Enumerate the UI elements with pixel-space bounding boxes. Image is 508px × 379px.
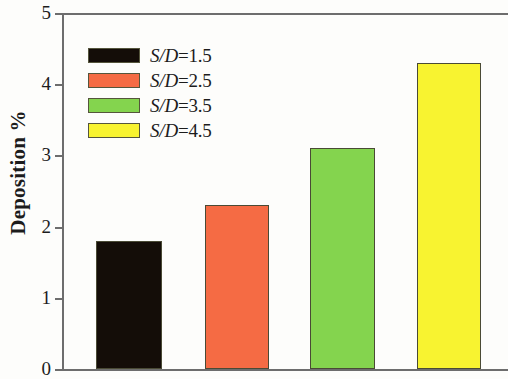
y-axis-tick-mark <box>55 155 62 157</box>
legend-item: S/D=4.5 <box>88 119 233 142</box>
legend-label-value: =4.5 <box>178 120 212 141</box>
legend-label: S/D=1.5 <box>150 45 212 67</box>
y-axis-tick-label: 5 <box>42 2 52 24</box>
legend-item: S/D=2.5 <box>88 69 233 92</box>
legend-item: S/D=1.5 <box>88 44 233 67</box>
legend-label: S/D=3.5 <box>150 95 212 117</box>
y-axis-tick-label: 2 <box>42 215 52 237</box>
legend: S/D=1.5S/D=2.5S/D=3.5S/D=4.5 <box>88 44 233 144</box>
legend-swatch <box>88 48 140 63</box>
legend-label-value: =1.5 <box>178 45 212 66</box>
y-axis-tick-mark <box>55 298 62 300</box>
legend-label-symbol: S/D <box>150 45 178 66</box>
bar-s-d-4-5 <box>417 63 481 369</box>
legend-label-symbol: S/D <box>150 95 178 116</box>
y-axis-tick-mark <box>55 84 62 86</box>
y-axis-tick-label: 3 <box>42 144 52 166</box>
y-axis-label-container: Deposition % <box>0 0 34 379</box>
y-axis-label: Deposition % <box>6 43 31 303</box>
y-axis-tick-label: 0 <box>42 358 52 379</box>
y-axis-tick-label: 4 <box>42 73 52 95</box>
legend-swatch <box>88 73 140 88</box>
y-axis-tick-mark <box>55 227 62 229</box>
y-axis-line <box>62 13 64 371</box>
legend-label-value: =2.5 <box>178 70 212 91</box>
x-axis-line <box>62 369 508 371</box>
bar-s-d-1-5 <box>96 241 162 369</box>
legend-label-symbol: S/D <box>150 70 178 91</box>
legend-swatch <box>88 123 140 138</box>
y-axis-tick-mark <box>55 13 62 15</box>
legend-item: S/D=3.5 <box>88 94 233 117</box>
bar-s-d-3-5 <box>310 148 375 369</box>
legend-label: S/D=4.5 <box>150 120 212 142</box>
legend-label-symbol: S/D <box>150 120 178 141</box>
chart-figure: Deposition % 543210 S/D=1.5S/D=2.5S/D=3.… <box>0 0 508 379</box>
legend-swatch <box>88 98 140 113</box>
legend-label-value: =3.5 <box>178 95 212 116</box>
y-axis-tick-mark <box>55 369 62 371</box>
plot-top-border <box>62 13 508 15</box>
bar-s-d-2-5 <box>205 205 269 369</box>
y-axis-tick-label: 1 <box>42 286 52 308</box>
legend-label: S/D=2.5 <box>150 70 212 92</box>
